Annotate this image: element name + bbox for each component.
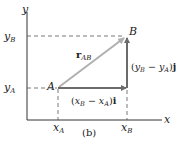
tick-yb: yB	[3, 30, 15, 44]
label-vertical: (yB − yA)j	[131, 61, 176, 74]
diagram-canvas: y x yB yA xA xB A B rAB (xB − xA)i (yB −…	[0, 0, 181, 146]
y-axis-label: y	[21, 3, 29, 16]
vector-diagram: y x yB yA xA xB A B rAB (xB − xA)i (yB −…	[0, 0, 181, 146]
label-horizontal: (xB − xA)i	[71, 95, 117, 108]
vector-r-ab	[59, 38, 124, 87]
label-r-ab: rAB	[76, 49, 91, 62]
point-a-label: A	[46, 80, 55, 93]
tick-xa: xA	[53, 121, 64, 135]
point-b-label: B	[128, 25, 137, 38]
x-axis-label: x	[164, 113, 171, 126]
tick-ya: yA	[3, 81, 15, 95]
figure-caption: (b)	[82, 127, 96, 138]
tick-xb: xB	[121, 121, 132, 135]
